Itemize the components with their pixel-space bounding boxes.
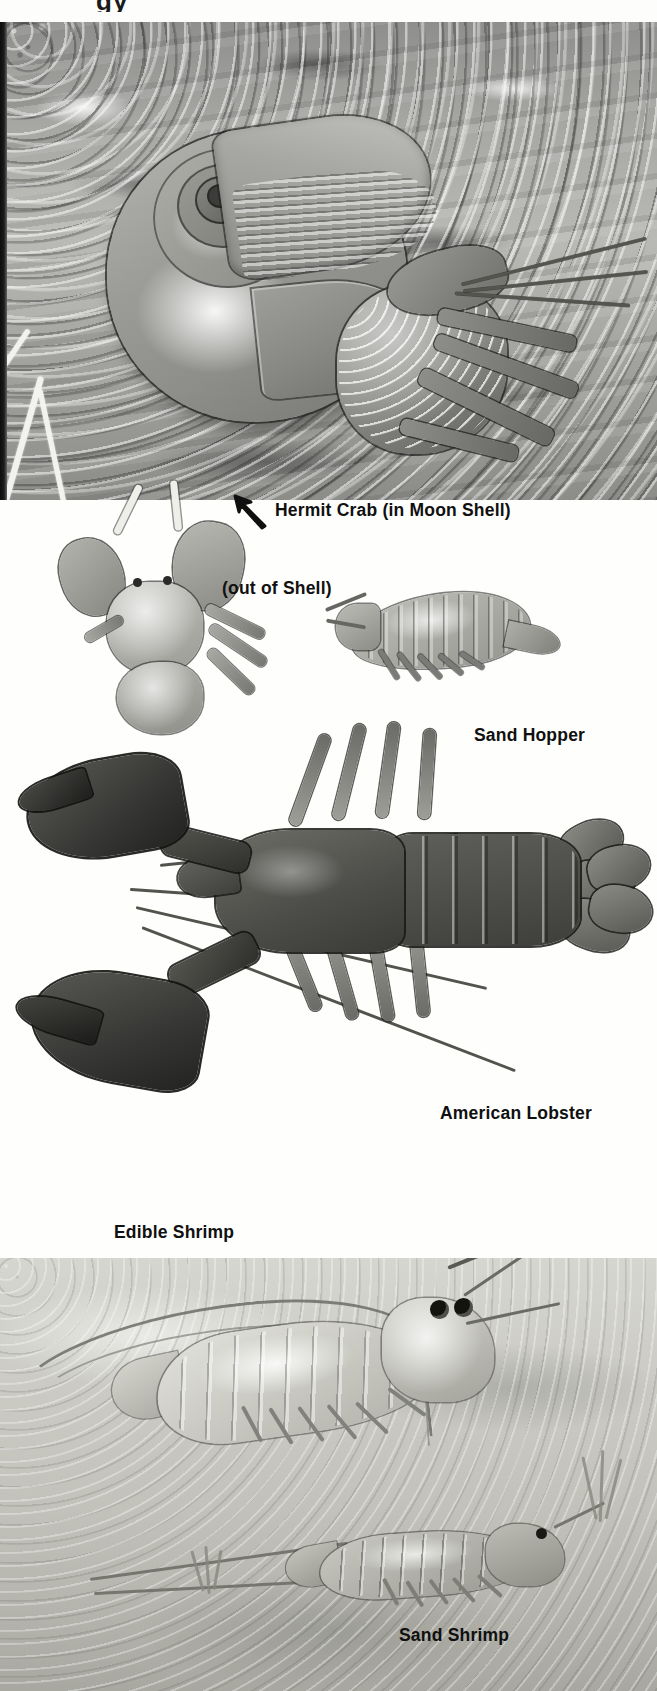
lobster-walking-leg (331, 723, 366, 821)
lobster-abdomen-segments (392, 836, 578, 944)
lobster-walking-leg (418, 729, 436, 820)
edible-shrimp-eye (454, 1298, 473, 1317)
shrimp-panel (0, 1258, 657, 1691)
specimen-panel (0, 500, 657, 1258)
label-edible-shrimp: Edible Shrimp (114, 1222, 234, 1243)
sand-shrimp-antenna (553, 1502, 605, 1529)
illustration-page: gy (0, 0, 657, 1691)
hermit-crab-abdomen (117, 662, 203, 734)
hermit-crab-carapace (107, 582, 203, 674)
hermit-crab-panel (7, 22, 657, 500)
sand-shrimp-head (486, 1524, 564, 1586)
hermit-crab-eye (163, 576, 172, 585)
page-header-fragment: gy (96, 0, 216, 12)
edible-shrimp (92, 1272, 562, 1502)
label-american-lobster: American Lobster (440, 1103, 592, 1124)
lobster-walking-leg (375, 722, 400, 819)
hermit-crab-eye (133, 578, 142, 587)
arrow-up-left-icon (229, 492, 269, 532)
sand-hopper-tail (504, 621, 562, 658)
label-hermit-crab: Hermit Crab (in Moon Shell) (275, 500, 511, 521)
edible-shrimp-eye (430, 1300, 449, 1319)
sand-hopper (330, 580, 560, 710)
label-sand-hopper: Sand Hopper (474, 725, 585, 746)
edible-shrimp-antenna (466, 1302, 561, 1325)
label-sand-shrimp: Sand Shrimp (399, 1625, 509, 1646)
label-out-of-shell: (out of Shell) (222, 578, 332, 599)
hermit-crab-out-of-shell (55, 520, 265, 740)
american-lobster (10, 738, 650, 1158)
sand-shrimp-eye (536, 1528, 547, 1539)
lobster-walking-leg (288, 733, 332, 827)
